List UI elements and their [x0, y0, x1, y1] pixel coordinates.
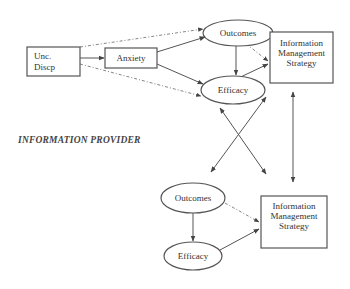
unc-discp-line2: Discp — [34, 62, 55, 72]
edge-upper-ims-to-lower-outcomes — [211, 97, 266, 172]
unc-discp-line1: Unc. — [34, 51, 51, 61]
edge-anxiety-to-outcomes — [157, 37, 205, 52]
ims-lower-line1: Information — [273, 201, 316, 211]
edge-lower-efficacy-to-ims — [220, 229, 259, 250]
edge-unc-to-efficacy — [80, 64, 201, 96]
node-ims-upper: Information Management Strategy — [270, 32, 333, 83]
outcomes-lower-label: Outcomes — [175, 193, 212, 203]
edge-efficacy-to-lower-ims — [220, 108, 266, 174]
edge-unc-to-outcomes — [80, 29, 203, 47]
diagram-canvas: Unc. Discp Anxiety Outcomes Efficacy Inf… — [0, 0, 350, 289]
edge-anxiety-to-efficacy — [157, 64, 203, 84]
node-outcomes-lower: Outcomes — [161, 183, 225, 213]
ims-lower-line3: Strategy — [279, 221, 309, 231]
node-outcomes-upper: Outcomes — [203, 20, 273, 46]
ims-lower-line2: Management — [271, 211, 318, 221]
anxiety-label: Anxiety — [117, 53, 146, 63]
ims-upper-line3: Strategy — [287, 58, 317, 68]
node-ims-lower: Information Management Strategy — [261, 196, 327, 248]
section-label-information-provider: INFORMATION PROVIDER — [17, 135, 141, 145]
outcomes-upper-label: Outcomes — [220, 28, 257, 38]
efficacy-lower-label: Efficacy — [178, 251, 209, 261]
node-efficacy-lower: Efficacy — [164, 242, 222, 270]
ims-upper-line2: Management — [278, 48, 325, 58]
efficacy-upper-label: Efficacy — [218, 85, 249, 95]
node-unc-discp: Unc. Discp — [27, 47, 80, 76]
node-efficacy-upper: Efficacy — [201, 76, 265, 104]
ims-upper-line1: Information — [280, 38, 323, 48]
node-anxiety: Anxiety — [105, 48, 157, 68]
edge-lower-outcomes-to-ims — [225, 203, 259, 222]
